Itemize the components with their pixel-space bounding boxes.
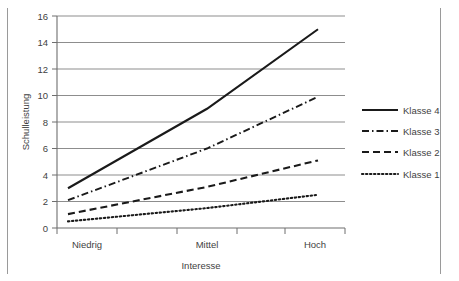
legend-item-klasse-3[interactable]: Klasse 3 xyxy=(362,126,439,137)
y-tick-label-16: 16 xyxy=(37,11,48,22)
legend-label-klasse-3: Klasse 3 xyxy=(403,126,439,137)
y-tick-label-8: 8 xyxy=(43,117,48,128)
legend-label-klasse-2: Klasse 2 xyxy=(403,147,439,158)
line-chart-svg: 16 14 12 10 8 6 4 2 0 Niedrig Mittel Hoc… xyxy=(0,0,459,281)
x-axis-title: Interesse xyxy=(181,260,220,271)
y-axis-title: Schulleistung xyxy=(20,94,31,151)
y-tick-label-10: 10 xyxy=(37,90,48,101)
legend-item-klasse-2[interactable]: Klasse 2 xyxy=(362,147,439,158)
x-category-label-hoch: Hoch xyxy=(304,239,326,250)
x-category-label-mittel: Mittel xyxy=(196,239,219,250)
gridlines xyxy=(57,16,345,202)
y-tick-label-4: 4 xyxy=(43,170,48,181)
series-line-klasse-4 xyxy=(68,29,318,188)
x-category-label-niedrig: Niedrig xyxy=(72,239,102,250)
y-tick-label-14: 14 xyxy=(37,37,48,48)
legend-item-klasse-4[interactable]: Klasse 4 xyxy=(362,105,439,116)
legend-item-klasse-1[interactable]: Klasse 1 xyxy=(362,169,439,180)
y-tick-label-6: 6 xyxy=(43,143,48,154)
legend-label-klasse-1: Klasse 1 xyxy=(403,169,439,180)
y-tick-label-2: 2 xyxy=(43,196,48,207)
series-line-klasse-1 xyxy=(68,195,318,222)
y-tick-label-12: 12 xyxy=(37,64,48,75)
chart-legend: Klasse 4 Klasse 3 Klasse 2 Klasse 1 xyxy=(362,105,439,180)
x-axis-ticks xyxy=(57,228,345,234)
chart-figure: 16 14 12 10 8 6 4 2 0 Niedrig Mittel Hoc… xyxy=(0,0,459,281)
y-tick-label-0: 0 xyxy=(43,223,48,234)
legend-label-klasse-4: Klasse 4 xyxy=(403,105,439,116)
y-axis-ticks xyxy=(52,16,57,228)
